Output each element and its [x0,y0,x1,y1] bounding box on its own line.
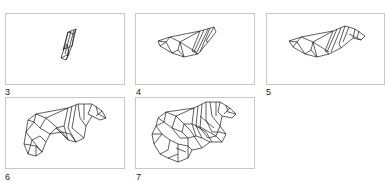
panel-label-3: 3 [5,88,10,97]
panel-label-7: 7 [136,173,141,181]
wireframe-mesh-step-6 [6,98,126,170]
wireframe-mesh-step-4 [136,14,256,86]
panel-label-4: 4 [136,88,141,97]
wireframe-mesh-step-3 [6,14,126,86]
figure-panel-5 [266,13,385,85]
wireframe-mesh-step-7 [136,98,256,170]
panel-label-6: 6 [5,173,10,181]
figure-panel-7 [135,97,255,169]
figure-panel-3 [5,13,125,85]
wireframe-mesh-step-5 [267,14,385,86]
figure-panel-6 [5,97,125,169]
figure-panel-4 [135,13,255,85]
panel-label-5: 5 [266,88,271,97]
